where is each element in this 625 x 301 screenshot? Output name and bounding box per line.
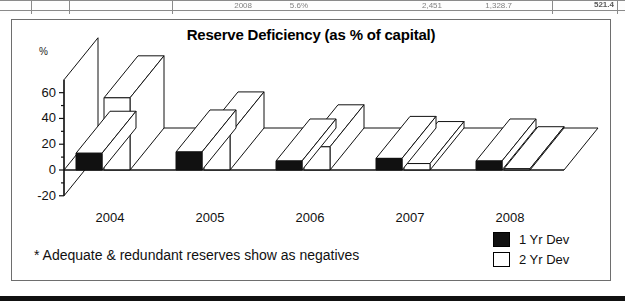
legend-label-1yr: 1 Yr Dev bbox=[519, 232, 569, 247]
table-column-divider bbox=[31, 0, 32, 14]
chart-legend: 1 Yr Dev 2 Yr Dev bbox=[493, 229, 601, 269]
table-column-divider bbox=[617, 0, 618, 14]
chart-panel: Reserve Deficiency (as % of capital) % -… bbox=[11, 19, 611, 281]
table-cell: 2008 bbox=[212, 2, 252, 9]
table-rule-top bbox=[0, 0, 625, 1]
y-tick-40: 40 bbox=[22, 110, 56, 125]
table-cell: 521.4 bbox=[566, 1, 614, 8]
y-tick-60: 60 bbox=[22, 85, 56, 100]
x-tick-2004: 2004 bbox=[80, 210, 140, 225]
legend-swatch-2yr-icon bbox=[493, 252, 510, 267]
table-column-divider bbox=[552, 0, 553, 14]
table-cell: 2,451 bbox=[404, 2, 442, 9]
x-tick-2007: 2007 bbox=[380, 210, 440, 225]
table-rule-bottom bbox=[0, 10, 625, 11]
y-tick-0: 0 bbox=[22, 162, 56, 177]
page-bottom-rule bbox=[0, 296, 625, 301]
legend-label-2yr: 2 Yr Dev bbox=[519, 252, 569, 267]
chart-footnote: * Adequate & redundant reserves show as … bbox=[34, 247, 359, 263]
table-column-divider bbox=[69, 0, 70, 14]
y-tick-20: 20 bbox=[22, 136, 56, 151]
table-cell: 1,328.7 bbox=[466, 2, 512, 9]
legend-item-1yr: 1 Yr Dev bbox=[493, 229, 601, 249]
legend-swatch-1yr-icon bbox=[493, 232, 510, 247]
legend-item-2yr: 2 Yr Dev bbox=[493, 249, 601, 269]
table-column-divider bbox=[172, 0, 173, 14]
cropped-table-strip: 20085.6%2,4511,328.7521.4 bbox=[0, 0, 625, 14]
x-tick-2008: 2008 bbox=[480, 210, 540, 225]
x-tick-2006: 2006 bbox=[280, 210, 340, 225]
y-tick--20: -20 bbox=[22, 188, 56, 203]
table-cell: 5.6% bbox=[272, 2, 308, 9]
x-tick-2005: 2005 bbox=[180, 210, 240, 225]
